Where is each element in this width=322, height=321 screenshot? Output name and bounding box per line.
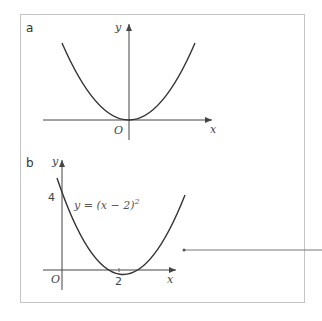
panel-b-label: b [26, 156, 34, 170]
panel-a-x-label: x [210, 123, 217, 136]
pointer-dot [183, 249, 186, 252]
panel-a-label: a [26, 21, 33, 35]
panel-a-origin-label: O [114, 124, 123, 137]
panel-b-x-label: x [167, 273, 174, 286]
panel-b: b y x O 4 2 y = (x − 2)2 [26, 155, 185, 290]
figure: a y x O b y x O 4 2 y = (x − 2)2 [0, 0, 322, 321]
panel-b-parabola [57, 178, 185, 274]
figure-frame [21, 15, 305, 303]
panel-b-origin-label: O [51, 273, 60, 286]
panel-b-y-label: y [51, 155, 59, 168]
panel-b-y-intercept-label: 4 [48, 191, 55, 204]
panel-a: a y x O [26, 21, 217, 140]
panel-b-equation: y = (x − 2)2 [73, 197, 140, 212]
panel-a-y-label: y [114, 21, 122, 34]
panel-b-vertex-x-label: 2 [115, 275, 122, 288]
